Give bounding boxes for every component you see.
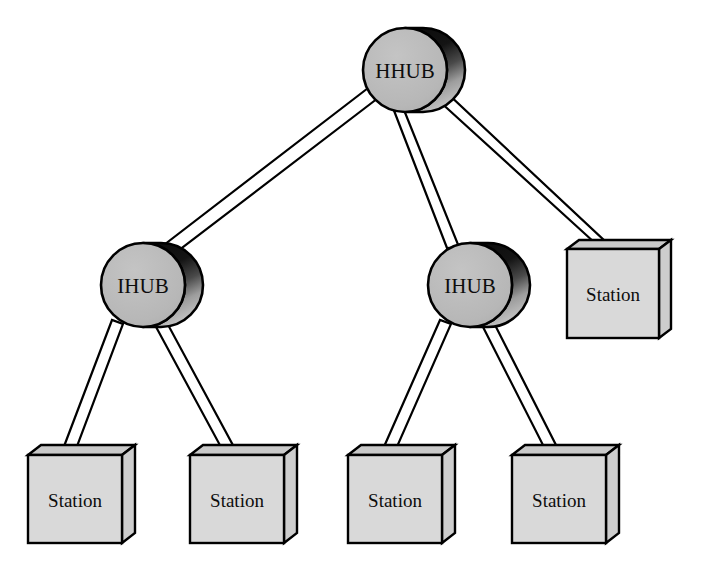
station-side-face <box>606 445 619 543</box>
station-node-hhub-right[interactable]: Station <box>567 240 671 338</box>
link-hhub-ihub-right <box>393 108 459 248</box>
station-top-face <box>348 445 455 455</box>
link-ihub-right-station-2 <box>482 321 558 449</box>
link-ihub-left-station-2 <box>155 321 235 449</box>
station-label: Station <box>586 284 640 305</box>
station-side-face <box>442 445 455 543</box>
station-node-left-2[interactable]: Station <box>190 445 297 543</box>
station-top-face <box>567 240 671 249</box>
station-node-left-1[interactable]: Station <box>28 445 135 543</box>
hub-label: IHUB <box>117 274 168 298</box>
topology-svg: Station Station Station Stati <box>0 0 706 577</box>
station-side-face <box>659 240 671 338</box>
hub-node-hhub[interactable]: HHUB <box>363 28 465 112</box>
station-label: Station <box>210 490 264 511</box>
hub-layer: HHUB IHUB IHUB <box>101 28 530 327</box>
station-top-face <box>28 445 135 455</box>
station-top-face <box>190 445 297 455</box>
station-top-face <box>512 445 619 455</box>
station-label: Station <box>48 490 102 511</box>
station-node-right-1[interactable]: Station <box>348 445 455 543</box>
link-ihub-right-station-1 <box>383 320 451 449</box>
hub-node-ihub-left[interactable]: IHUB <box>101 243 203 327</box>
topology-diagram-canvas: Station Station Station Stati <box>0 0 706 577</box>
link-hhub-station-right <box>438 93 607 243</box>
link-hhub-ihub-left <box>160 85 382 257</box>
link-ihub-left-station-1 <box>63 320 123 449</box>
station-side-face <box>122 445 135 543</box>
hub-label: HHUB <box>375 59 435 83</box>
station-label: Station <box>368 490 422 511</box>
station-label: Station <box>532 490 586 511</box>
station-node-right-2[interactable]: Station <box>512 445 619 543</box>
hub-label: IHUB <box>444 274 495 298</box>
station-side-face <box>284 445 297 543</box>
hub-node-ihub-right[interactable]: IHUB <box>428 243 530 327</box>
